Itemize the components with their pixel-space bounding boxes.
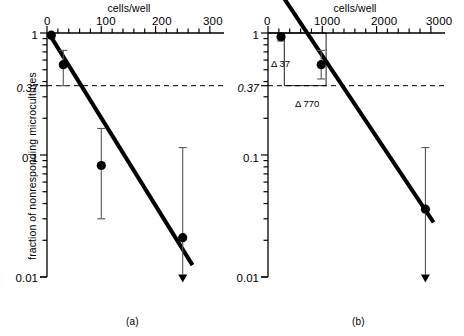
error-bar-arrow-down xyxy=(178,274,187,282)
data-point[interactable] xyxy=(317,60,326,69)
fit-line xyxy=(51,37,192,265)
data-point[interactable] xyxy=(59,60,68,69)
data-point[interactable] xyxy=(276,32,285,41)
data-point[interactable] xyxy=(97,161,106,170)
data-point[interactable] xyxy=(178,233,187,242)
figure-container: fraction of nonresponding microcultures … xyxy=(0,0,464,336)
panel-a xyxy=(40,26,224,282)
data-point[interactable] xyxy=(421,205,430,214)
panel-b xyxy=(261,0,445,282)
data-point[interactable] xyxy=(47,31,56,40)
plot-canvas xyxy=(0,0,464,336)
error-bar-arrow-down xyxy=(421,274,430,282)
